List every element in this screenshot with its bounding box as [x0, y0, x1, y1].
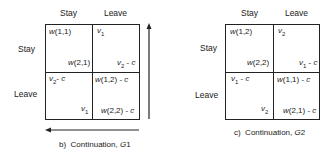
cell-payoff-col: w(2,2) - c [101, 106, 134, 115]
caption-b: b) Continuation, G1 [59, 140, 131, 149]
arrow-left-icon [44, 125, 142, 135]
cell-payoff-row: w(1,1) [49, 27, 71, 36]
row-header-stay: Stay [200, 43, 217, 53]
cell-payoff-col: v1 - c [299, 58, 317, 69]
arrow-up-icon [143, 22, 155, 122]
cell-payoff-row: w(1,2) - c [95, 75, 128, 84]
grid-divider [45, 72, 140, 73]
cell-payoff-row: v2- c [49, 74, 65, 85]
cell-payoff-col: w(2,2) [247, 58, 269, 67]
grid-divider [225, 72, 320, 73]
col-header-stay: Stay [226, 8, 273, 18]
col-header-stay: Stay [45, 8, 92, 18]
col-header-leave: Leave [92, 8, 139, 18]
cell-payoff-col: v2 [261, 104, 268, 115]
row-header-leave: Leave [14, 89, 37, 99]
row-header-stay: Stay [18, 44, 35, 54]
cell-payoff-col: v1 [81, 104, 88, 115]
row-header-leave: Leave [195, 90, 218, 100]
cell-payoff-col: w(2,1) - c [283, 106, 316, 115]
cell-payoff-row: v2 [278, 26, 285, 37]
cell-payoff-row: w(1,1) - c [277, 75, 310, 84]
caption-c: c) Continuation, G2 [234, 128, 305, 137]
cell-payoff-row: w(1,2) [230, 27, 252, 36]
cell-payoff-col: v2 - c [117, 58, 135, 69]
cell-payoff-row: v1 [97, 26, 104, 37]
cell-payoff-col: w(2,1) [68, 58, 90, 67]
cell-payoff-row: v1 - c [231, 74, 249, 85]
col-header-leave: Leave [273, 8, 320, 18]
